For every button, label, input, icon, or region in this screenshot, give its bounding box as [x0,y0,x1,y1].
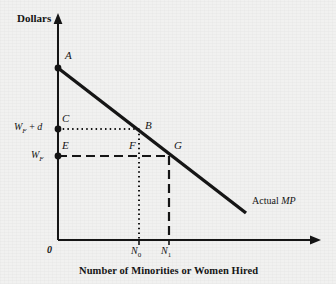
n0-subscript: 0 [138,251,142,259]
y-tick-label-wf-plus-d: WF + d [14,122,42,135]
wf-plus-d-extra: d [37,121,42,132]
actual-mp-curve [58,68,246,213]
point-label-g: G [174,140,182,151]
curve-label-actual-mp: Actual MP [252,196,296,206]
wf-plus-d-operator: + [27,121,38,132]
point-label-b: B [145,120,152,131]
x-tick-label-n0: N0 [131,246,141,259]
x-tick-label-n1: N1 [161,246,171,259]
point-label-a: A [65,50,72,61]
point-label-f: F [129,140,136,151]
point-label-e: E [62,140,69,151]
n1-symbol: N [161,245,168,256]
point-marker-e [55,153,62,160]
n0-symbol: N [131,245,138,256]
wf-subscript: F [39,155,43,163]
point-marker-a [55,65,62,72]
y-axis-title: Dollars [17,13,51,24]
n1-subscript: 1 [168,251,172,259]
origin-label: 0 [47,245,52,255]
x-axis-caption: Number of Minorities or Women Hired [79,266,258,277]
x-axis [58,236,321,245]
economics-diagram: Dollars A C B E F G WF + d WF 0 N0 N1 Ac… [0,0,336,284]
y-tick-label-wf: WF [31,150,44,163]
point-marker-c [55,126,62,133]
point-label-c: C [62,113,69,124]
diagram-canvas [0,0,336,284]
curve-label-prefix: Actual [252,195,281,206]
curve-label-mp-term: MP [281,195,295,206]
